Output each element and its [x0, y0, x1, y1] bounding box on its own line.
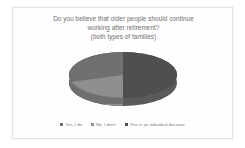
legend-swatch-icon-no-i-dont — [91, 123, 94, 126]
chart-legend: Yes, I do No, I don't This is an individ… — [13, 122, 232, 127]
pie-rim-outline — [69, 52, 177, 98]
chart-title-line-2: working after retirement? — [19, 23, 228, 32]
chart-title-line-3: (both types of families) — [19, 32, 228, 41]
legend-swatch-icon-this-is-an-individual-decision — [125, 123, 128, 126]
legend-item-no-i-dont[interactable]: No, I don't — [91, 122, 116, 127]
legend-label-this-is-an-individual-decision: This is an individual decision — [130, 122, 185, 127]
pie-3d-side-wedge — [89, 104, 123, 106]
legend-label-no-i-dont: No, I don't — [96, 122, 116, 127]
legend-label-yes-i-do: Yes, I do — [65, 122, 82, 127]
chart-frame: Do you believe that older people should … — [12, 7, 233, 139]
chart-title: Do you believe that older people should … — [19, 14, 228, 42]
legend-item-yes-i-do[interactable]: Yes, I do — [60, 122, 82, 127]
chart-title-line-1: Do you believe that older people should … — [19, 14, 228, 23]
pie-chart — [63, 46, 183, 116]
legend-swatch-icon-yes-i-do — [60, 123, 63, 126]
legend-item-this-is-an-individual-decision[interactable]: This is an individual decision — [125, 122, 185, 127]
